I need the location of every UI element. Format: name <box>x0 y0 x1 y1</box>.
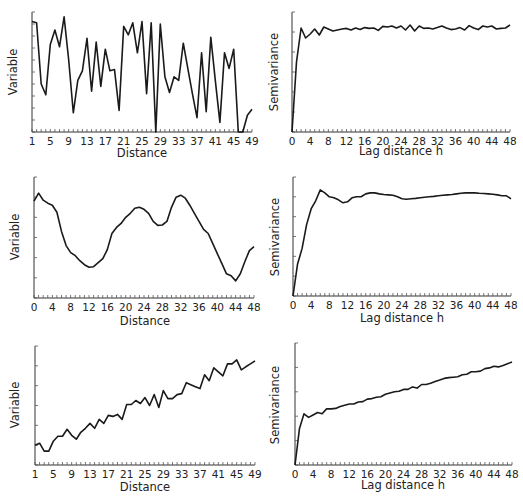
x-tick-label: 20 <box>379 468 392 480</box>
data-series-line <box>295 362 512 465</box>
x-tick-label: 48 <box>505 468 518 480</box>
y-axis-title: Semivariance <box>268 198 282 276</box>
chart-middle-left-variable-vs-distance: Variable Distance 0481216202428323640444… <box>8 177 261 328</box>
chart-top-right-semivariogram: Semivariance Lag distance h 048121620242… <box>267 12 517 158</box>
x-tick-label: 41 <box>212 468 225 480</box>
x-tick-label: 40 <box>468 299 481 311</box>
axes-frame <box>35 346 255 465</box>
x-tick-label: 36 <box>450 299 464 311</box>
x-tick-label: 24 <box>394 135 408 147</box>
x-tick-label: 12 <box>341 299 354 311</box>
x-tick-label: 48 <box>247 301 260 313</box>
x-tick-label: 0 <box>289 135 296 147</box>
x-tick-label: 8 <box>326 299 333 311</box>
x-tick-label: 0 <box>292 468 299 480</box>
x-tick-label: 4 <box>49 301 56 313</box>
axes-frame <box>293 177 511 296</box>
x-tick-label: 13 <box>83 468 96 480</box>
x-tick-label: 36 <box>449 135 463 147</box>
x-tick-label: 36 <box>451 468 465 480</box>
x-tick-label: 28 <box>413 299 426 311</box>
x-tick-label: 33 <box>175 468 188 480</box>
x-tick-label: 24 <box>137 301 151 313</box>
x-axis-title: Distance <box>117 146 167 160</box>
data-series-line <box>292 25 510 132</box>
x-tick-label: 17 <box>102 468 115 480</box>
x-tick-label: 44 <box>486 299 500 311</box>
x-tick-label: 20 <box>119 301 132 313</box>
x-tick-label: 49 <box>248 468 261 480</box>
x-tick-label: 5 <box>50 468 57 480</box>
chart-top-left-variable-vs-distance: Variable Distance 1591317212529333741454… <box>6 12 259 160</box>
x-tick-label: 5 <box>47 135 54 147</box>
x-tick-label: 40 <box>211 301 224 313</box>
x-tick-label: 0 <box>31 301 38 313</box>
x-tick-label: 12 <box>343 468 356 480</box>
x-tick-label: 21 <box>117 135 130 147</box>
x-tick-label: 40 <box>467 135 480 147</box>
x-tick-label: 49 <box>245 135 258 147</box>
x-tick-label: 29 <box>157 468 170 480</box>
x-tick-label: 16 <box>358 135 372 147</box>
y-axis-title: Variable <box>6 49 20 96</box>
x-tick-label: 17 <box>99 135 112 147</box>
x-tick-label: 24 <box>395 299 409 311</box>
x-tick-label: 12 <box>82 301 95 313</box>
x-tick-label: 48 <box>503 135 516 147</box>
y-axis-title: Variable <box>8 382 22 429</box>
x-tick-label: 44 <box>487 468 501 480</box>
x-tick-label: 9 <box>68 468 75 480</box>
x-tick-label: 0 <box>290 299 297 311</box>
x-tick-label: 32 <box>433 468 446 480</box>
x-tick-label: 21 <box>120 468 133 480</box>
x-tick-label: 1 <box>32 468 39 480</box>
x-tick-label: 40 <box>469 468 482 480</box>
axes-frame <box>34 177 254 298</box>
x-tick-label: 24 <box>397 468 411 480</box>
chart-middle-right-semivariogram: Semivariance Lag distance h 048121620242… <box>268 177 518 325</box>
x-tick-label: 25 <box>138 468 151 480</box>
y-axis-title: Semivariance <box>268 366 282 444</box>
x-tick-label: 44 <box>229 301 243 313</box>
data-series-line <box>34 193 254 281</box>
x-tick-label: 9 <box>65 135 72 147</box>
x-tick-label: 45 <box>227 135 240 147</box>
y-axis-title: Variable <box>8 214 22 261</box>
x-tick-label: 45 <box>230 468 243 480</box>
x-axis-title: Distance <box>120 314 170 328</box>
axes-frame <box>295 343 512 465</box>
x-tick-label: 20 <box>377 299 390 311</box>
data-series-line <box>32 17 252 132</box>
x-tick-label: 28 <box>415 468 428 480</box>
x-tick-label: 29 <box>154 135 167 147</box>
x-tick-label: 41 <box>209 135 222 147</box>
x-tick-label: 32 <box>431 135 444 147</box>
chart-bottom-right-semivariogram: Semivariance Lag distance h 048121620242… <box>268 343 519 492</box>
x-tick-label: 12 <box>340 135 353 147</box>
y-axis-title: Semivariance <box>267 33 281 111</box>
x-tick-label: 37 <box>190 135 203 147</box>
x-tick-label: 37 <box>193 468 206 480</box>
chart-bottom-left-variable-vs-distance: Variable Distance 1591317212529333741454… <box>8 346 262 494</box>
x-tick-label: 20 <box>376 135 389 147</box>
x-tick-label: 36 <box>192 301 206 313</box>
x-tick-label: 13 <box>80 135 93 147</box>
x-tick-label: 28 <box>412 135 425 147</box>
x-tick-label: 32 <box>174 301 187 313</box>
x-tick-label: 8 <box>328 468 335 480</box>
data-series-line <box>35 360 255 451</box>
x-tick-label: 44 <box>485 135 499 147</box>
x-tick-label: 4 <box>310 468 317 480</box>
x-axis-title: Lag distance h <box>361 478 445 492</box>
x-tick-label: 32 <box>432 299 445 311</box>
x-axis-title: Distance <box>120 480 170 494</box>
x-tick-label: 4 <box>307 135 314 147</box>
x-tick-label: 25 <box>135 135 148 147</box>
x-tick-label: 33 <box>172 135 185 147</box>
x-tick-label: 16 <box>361 468 375 480</box>
x-tick-label: 16 <box>359 299 373 311</box>
x-axis-title: Lag distance h <box>360 311 444 325</box>
x-tick-label: 8 <box>67 301 74 313</box>
x-tick-label: 16 <box>101 301 115 313</box>
x-tick-label: 1 <box>29 135 36 147</box>
